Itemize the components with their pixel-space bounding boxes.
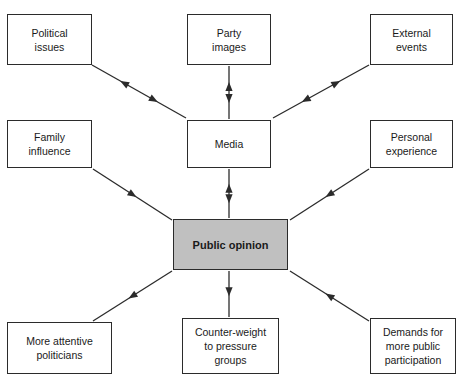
node-political-issues-label: Political issues: [28, 26, 70, 54]
edge-public-opinion-more-attentive-politicians-arrowhead-forward: [129, 291, 139, 299]
diagram-canvas: Political issues Party images External e…: [0, 0, 460, 376]
edge-family-influence-public-opinion-arrowhead-forward: [127, 189, 137, 197]
edge-personal-experience-public-opinion-arrowhead-forward: [326, 189, 336, 197]
edge-party-images-media-arrowhead-forward: [225, 94, 232, 103]
edge-political-issues-media-arrowhead-forward: [148, 95, 158, 103]
node-public-opinion: Public opinion: [173, 219, 288, 270]
node-family-influence: Family influence: [7, 120, 92, 168]
node-more-attentive-politicians-label: More attentive politicians: [23, 334, 96, 362]
edge-external-events-media-arrowhead-reverse: [331, 81, 341, 89]
node-counter-weight-label: Counter-weight to pressure groups: [192, 325, 269, 367]
edge-political-issues-media-arrowhead-reverse: [120, 81, 130, 89]
edge-media-public-opinion-arrowhead-reverse: [225, 184, 232, 193]
edge-personal-experience-public-opinion: [290, 169, 369, 220]
node-family-influence-label: Family influence: [25, 130, 73, 158]
node-counter-weight: Counter-weight to pressure groups: [182, 318, 279, 374]
node-demands-more-public-participation-label: Demands for more public participation: [380, 325, 446, 367]
edge-external-events-media-arrowhead-forward: [302, 95, 312, 103]
node-personal-experience: Personal experience: [370, 120, 453, 168]
node-public-opinion-label: Public opinion: [190, 238, 272, 252]
node-media: Media: [187, 120, 271, 168]
node-party-images-label: Party images: [209, 26, 249, 54]
edge-political-issues-media-line: [92, 65, 186, 118]
edge-media-public-opinion: [225, 169, 232, 218]
edge-party-images-media-arrowhead-reverse: [225, 82, 232, 91]
node-media-label: Media: [212, 137, 247, 151]
node-personal-experience-label: Personal experience: [383, 130, 440, 158]
edge-demands-public-opinion-arrowhead-forward: [326, 294, 336, 302]
edge-party-images-media: [225, 66, 232, 119]
edge-family-influence-public-opinion: [93, 169, 172, 220]
node-more-attentive-politicians: More attentive politicians: [7, 322, 112, 374]
diagram-title: [0, 0, 460, 1]
node-political-issues: Political issues: [7, 14, 92, 65]
node-demands-more-public-participation: Demands for more public participation: [370, 318, 456, 374]
node-external-events-label: External events: [389, 26, 434, 54]
edge-external-events-media: [273, 65, 369, 118]
edge-media-public-opinion-arrowhead-forward: [225, 194, 232, 203]
node-party-images: Party images: [187, 14, 271, 65]
edge-public-opinion-more-attentive-politicians: [93, 271, 172, 321]
node-external-events: External events: [370, 14, 453, 65]
edge-external-events-media-line: [273, 65, 369, 118]
edge-public-opinion-counter-weight-arrowhead-forward: [225, 287, 232, 296]
edge-public-opinion-counter-weight: [225, 271, 232, 317]
edge-demands-public-opinion: [290, 271, 369, 321]
edge-political-issues-media: [92, 65, 186, 118]
